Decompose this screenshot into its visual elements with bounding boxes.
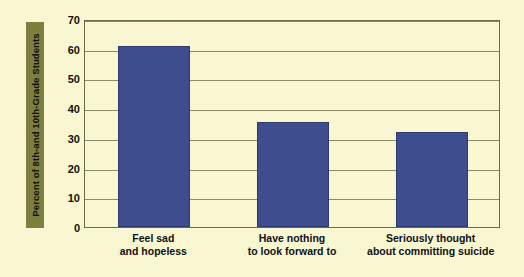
- y-axis-title: Percent of 8th-and 10th-Grade Students: [30, 33, 41, 216]
- x-axis-label-line: Have nothing: [223, 232, 362, 245]
- y-axis-tick-label: 70: [68, 14, 80, 26]
- y-axis-title-box: Percent of 8th-and 10th-Grade Students: [26, 22, 44, 228]
- bar: [118, 46, 190, 227]
- x-axis-label-line: to look forward to: [223, 245, 362, 258]
- y-axis-tick-labels: 010203040506070: [52, 0, 80, 277]
- x-axis-category-label: Seriously thoughtabout committing suicid…: [361, 232, 500, 258]
- x-axis-category-labels: Feel sadand hopelessHave nothingto look …: [84, 232, 500, 274]
- bar: [257, 122, 329, 227]
- bar-series: [85, 21, 499, 227]
- y-axis-tick-label: 40: [68, 103, 80, 115]
- y-axis-tick-label: 60: [68, 44, 80, 56]
- x-axis-label-line: Feel sad: [84, 232, 223, 245]
- bar: [396, 132, 468, 227]
- x-axis-category-label: Feel sadand hopeless: [84, 232, 223, 258]
- y-axis-tick-label: 10: [68, 192, 80, 204]
- x-axis-label-line: Seriously thought: [361, 232, 500, 245]
- y-axis-tick-label: 0: [74, 222, 80, 234]
- x-axis-label-line: about committing suicide: [361, 245, 500, 258]
- y-axis-tick-label: 30: [68, 133, 80, 145]
- plot-area: [84, 20, 500, 228]
- y-axis-tick-label: 20: [68, 163, 80, 175]
- x-axis-label-line: and hopeless: [84, 245, 223, 258]
- bar-chart: Percent of 8th-and 10th-Grade Students 0…: [0, 0, 524, 277]
- x-axis-category-label: Have nothingto look forward to: [223, 232, 362, 258]
- y-axis-tick-label: 50: [68, 73, 80, 85]
